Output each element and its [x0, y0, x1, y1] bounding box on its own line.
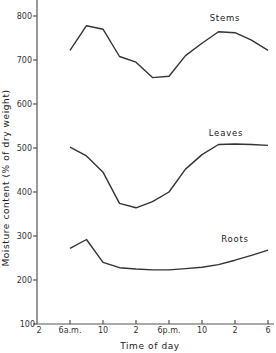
x-ticks: 26a.m.1026p.m.1026 — [36, 320, 270, 335]
x-tick-label: 10 — [98, 326, 108, 335]
x-tick-label: 10 — [197, 326, 207, 335]
x-tick-label: 6a.m. — [59, 326, 82, 335]
y-tick-label: 800 — [17, 12, 32, 21]
series-line-leaves — [70, 144, 268, 208]
y-tick-label: 500 — [17, 144, 32, 153]
y-tick-label: 700 — [17, 56, 32, 65]
series-label-stems: Stems — [210, 13, 241, 23]
y-ticks: 100200300400500600700800 — [17, 12, 37, 329]
x-tick-label: 6 — [265, 326, 270, 335]
y-tick-label: 600 — [17, 100, 32, 109]
axes: 100200300400500600700800 26a.m.1026p.m.1… — [17, 0, 274, 335]
y-tick-label: 100 — [20, 320, 35, 329]
series-label-roots: Roots — [221, 234, 249, 244]
x-tick-label: 2 — [133, 326, 138, 335]
x-axis-title: Time of day — [119, 341, 180, 351]
x-tick-label: 2 — [232, 326, 237, 335]
y-tick-label: 200 — [17, 276, 32, 285]
y-tick-label: 400 — [17, 188, 32, 197]
series-label-leaves: Leaves — [209, 128, 244, 138]
x-tick-label: 6p.m. — [157, 326, 180, 335]
moisture-chart: 100200300400500600700800 26a.m.1026p.m.1… — [0, 0, 276, 353]
x-tick-label: 2 — [36, 326, 41, 335]
y-axis-title: Moisture content (% of dry weight) — [1, 89, 11, 266]
series-line-stems — [70, 26, 268, 78]
series-line-roots — [70, 240, 268, 270]
y-tick-label: 300 — [17, 232, 32, 241]
